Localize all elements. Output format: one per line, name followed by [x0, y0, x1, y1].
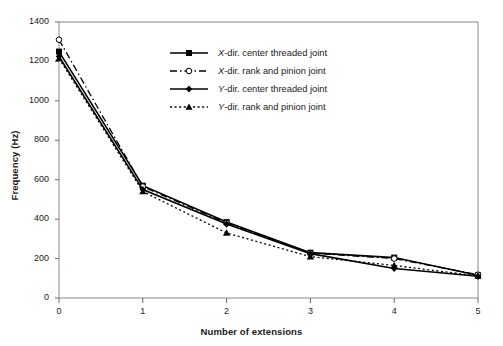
x-tick-label: 5 — [466, 306, 490, 316]
figure-container: 0200400600800100012001400 012345 Frequen… — [0, 0, 503, 346]
x-tick-label: 3 — [298, 306, 322, 316]
x-tick-marks — [59, 298, 478, 303]
legend-marker-icon — [186, 50, 192, 56]
legend-label: X-dir. center threaded joint — [218, 48, 327, 58]
y-tick-label: 1200 — [17, 55, 49, 65]
y-axis-title: Frequency (Hz) — [9, 96, 20, 236]
y-tick-label: 1000 — [17, 95, 49, 105]
data-point-marker — [56, 37, 62, 43]
x-tick-label: 2 — [215, 306, 239, 316]
y-tick-label: 200 — [17, 253, 49, 263]
y-tick-label: 0 — [17, 292, 49, 302]
legend-item-2[interactable]: X-dir. rank and pinion joint — [168, 62, 358, 80]
legend-marker-icon — [186, 85, 192, 92]
legend-label: X-dir. rank and pinion joint — [218, 66, 326, 76]
x-axis-title: Number of extensions — [0, 326, 503, 337]
legend-label: Y-dir. rank and pinion joint — [218, 102, 326, 112]
data-point-marker — [223, 229, 230, 235]
y-tick-label: 600 — [17, 174, 49, 184]
y-tick-label: 800 — [17, 134, 49, 144]
chart-legend: X-dir. center threaded jointX-dir. rank … — [168, 44, 358, 116]
legend-marker-icon — [185, 103, 192, 109]
x-tick-label: 4 — [382, 306, 406, 316]
data-point-marker — [391, 256, 397, 262]
legend-key-triangle-icon — [168, 100, 210, 114]
legend-item-1[interactable]: X-dir. center threaded joint — [168, 44, 358, 62]
legend-key-circle-open-icon — [168, 64, 210, 78]
legend-key-square-icon — [168, 46, 210, 60]
legend-item-4[interactable]: Y-dir. rank and pinion joint — [168, 98, 358, 116]
legend-marker-icon — [186, 68, 192, 74]
y-tick-label: 1400 — [17, 16, 49, 26]
x-tick-label: 1 — [131, 306, 155, 316]
x-tick-label: 0 — [47, 306, 71, 316]
y-tick-label: 400 — [17, 213, 49, 223]
legend-key-diamond-icon — [168, 82, 210, 96]
legend-label: Y-dir. center threaded joint — [218, 84, 327, 94]
y-tick-marks — [55, 22, 59, 298]
legend-item-3[interactable]: Y-dir. center threaded joint — [168, 80, 358, 98]
